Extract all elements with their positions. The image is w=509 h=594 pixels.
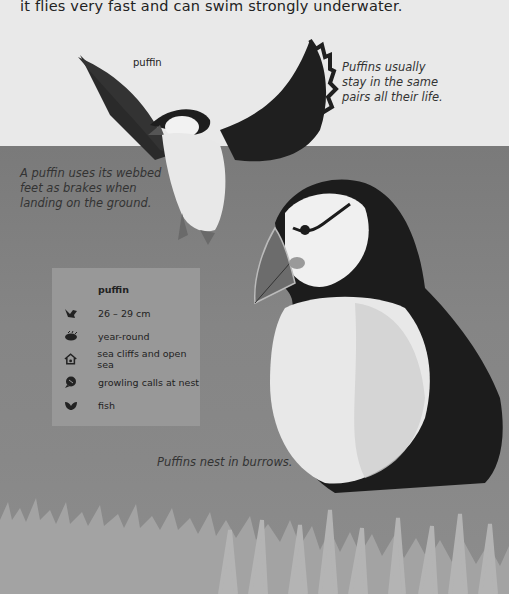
info-row-habitat: sea cliffs and open sea: [64, 352, 200, 366]
info-row-text: growling calls at nest: [98, 377, 199, 388]
fact-pairs: Puffins usually stay in the same pairs a…: [342, 60, 443, 105]
habitat-house-icon: [64, 353, 77, 365]
fact-burrows: Puffins nest in burrows.: [157, 455, 292, 470]
fact-line: feet as brakes when: [20, 181, 161, 196]
fact-line: landing on the ground.: [20, 196, 161, 211]
info-row-call: growling calls at nest: [64, 375, 199, 389]
food-leaf-icon: [64, 399, 78, 411]
season-icon: [64, 330, 78, 342]
info-card: puffin 26 – 29 cm year-round sea cliffs …: [52, 268, 200, 426]
bird-size-icon: [64, 307, 78, 319]
flying-bird-label: puffin: [133, 57, 162, 68]
fact-line: Puffins usually: [342, 60, 443, 75]
call-speech-icon: [64, 376, 78, 388]
info-row-size: 26 – 29 cm: [64, 306, 150, 320]
fact-line: Puffins nest in burrows.: [157, 455, 292, 470]
grass-foreground: [0, 490, 509, 594]
info-row-text: year-round: [98, 331, 150, 342]
info-card-title: puffin: [98, 284, 129, 295]
info-row-food: fish: [64, 398, 115, 412]
book-page: it flies very fast and can swim strongly…: [0, 0, 509, 594]
intro-text: it flies very fast and can swim strongly…: [20, 0, 403, 14]
info-row-text: fish: [98, 400, 115, 411]
fact-line: A puffin uses its webbed: [20, 166, 161, 181]
fact-webbed-feet: A puffin uses its webbed feet as brakes …: [20, 166, 161, 211]
info-row-text: 26 – 29 cm: [98, 308, 150, 319]
info-row-text: sea cliffs and open sea: [97, 348, 200, 370]
fact-line: stay in the same: [342, 75, 443, 90]
fact-line: pairs all their life.: [342, 90, 443, 105]
info-row-season: year-round: [64, 329, 150, 343]
